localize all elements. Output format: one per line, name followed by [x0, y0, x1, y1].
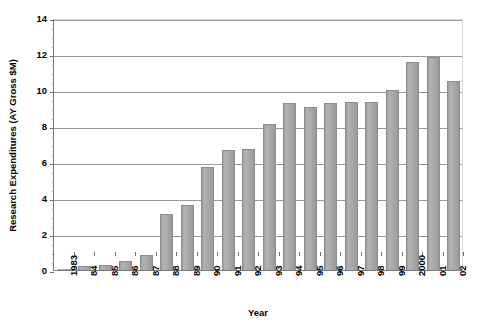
y-axis-title: Research Expenditures (AY Gross $M) [2, 0, 22, 290]
y-axis-tick-label: 10 [21, 86, 47, 96]
bar [263, 124, 276, 270]
y-axis-tick-label: 4 [21, 194, 47, 204]
x-axis-tick-label-text: 02 [457, 265, 468, 276]
x-axis-tick-label-text: 01 [437, 265, 448, 276]
x-axis-tick-label: 96 [324, 276, 335, 310]
x-axis-tick-label: 92 [242, 276, 253, 310]
bar [447, 81, 460, 270]
x-axis-tick-label-text: 95 [314, 265, 325, 276]
bar [365, 102, 378, 270]
bar [283, 103, 296, 270]
x-axis-tick [258, 252, 259, 256]
bar [406, 62, 419, 270]
x-axis-tick-label-text: 85 [109, 265, 120, 276]
x-axis-tick [381, 252, 382, 256]
x-axis-tick-label: 90 [201, 276, 212, 310]
plot-area [53, 19, 463, 271]
x-axis-tick-label-text: 90 [211, 265, 222, 276]
x-axis-tick-label-text: 89 [191, 265, 202, 276]
x-axis-tick-label-text: 88 [170, 265, 181, 276]
x-axis-tick-label: 94 [283, 276, 294, 310]
y-axis-tick-label: 2 [21, 230, 47, 240]
x-axis-tick [53, 252, 54, 256]
x-axis-tick-label: 86 [119, 276, 130, 310]
x-axis-tick [197, 252, 198, 256]
x-axis-tick [402, 252, 403, 256]
x-axis-tick-label-text: 97 [355, 265, 366, 276]
x-axis-tick-label: 98 [365, 276, 376, 310]
bar [181, 205, 194, 270]
x-axis-tick-label: 85 [99, 276, 110, 310]
x-axis-tick [94, 252, 95, 256]
x-axis-tick-label-text: 94 [293, 265, 304, 276]
x-axis-tick-label: 99 [386, 276, 397, 310]
y-axis-tick-label: 6 [21, 158, 47, 168]
x-axis-tick-label-text: 98 [375, 265, 386, 276]
x-axis-tick [279, 252, 280, 256]
y-axis-tick-label: 0 [21, 266, 47, 276]
y-axis-tick-label: 12 [21, 50, 47, 60]
y-axis-major-tick [50, 272, 54, 273]
x-axis-tick-label-text: 2000 [416, 255, 427, 276]
x-axis-tick [176, 252, 177, 256]
x-axis-tick [217, 252, 218, 256]
bar [345, 102, 358, 270]
x-axis-tick [443, 252, 444, 256]
x-axis-tick [361, 252, 362, 256]
x-axis-tick-label: 93 [263, 276, 274, 310]
bar [242, 149, 255, 270]
bar [386, 90, 399, 270]
x-axis-tick [135, 252, 136, 256]
x-axis-tick-label-text: 86 [129, 265, 140, 276]
x-axis-tick-label-text: 87 [150, 265, 161, 276]
x-axis-tick-label: 1983 [58, 276, 69, 310]
x-axis-title: Year [53, 307, 463, 318]
x-axis-tick-label-text: 84 [88, 265, 99, 276]
x-axis-tick-label: 95 [304, 276, 315, 310]
y-axis-title-text: Research Expenditures (AY Gross $M) [7, 59, 18, 232]
bar [160, 214, 173, 270]
x-axis-tick-label-text: 93 [273, 265, 284, 276]
x-axis-tick-label: 97 [345, 276, 356, 310]
bar [427, 57, 440, 270]
x-axis-tick [115, 252, 116, 256]
x-axis-tick-label: 88 [160, 276, 171, 310]
bar [222, 150, 235, 270]
bar [201, 167, 214, 270]
bar-chart: Research Expenditures (AY Gross $M) 0246… [0, 0, 492, 327]
x-axis-tick-label-text: 99 [396, 265, 407, 276]
x-axis-tick [238, 252, 239, 256]
y-axis-tick-label: 14 [21, 14, 47, 24]
bar [304, 107, 317, 270]
x-axis-tick [299, 252, 300, 256]
y-axis-tick-label: 8 [21, 122, 47, 132]
x-axis-tick-label: 01 [427, 276, 438, 310]
x-axis-tick-label-text: 92 [252, 265, 263, 276]
x-axis-tick-label-text: 1983 [68, 255, 79, 276]
x-axis-tick-label: 2000 [406, 276, 417, 310]
x-axis-tick-label: 89 [181, 276, 192, 310]
x-axis-tick [320, 252, 321, 256]
bars-layer [54, 20, 462, 270]
x-axis-tick-label: 84 [78, 276, 89, 310]
x-axis-tick-label-text: 96 [334, 265, 345, 276]
x-axis-tick-label: 87 [140, 276, 151, 310]
x-axis-tick [340, 252, 341, 256]
x-axis-tick-label: 91 [222, 276, 233, 310]
x-axis-tick [156, 252, 157, 256]
x-axis-tick [463, 252, 464, 256]
bar [324, 103, 337, 270]
x-axis-tick-label-text: 91 [232, 265, 243, 276]
x-axis-tick-label: 02 [447, 276, 458, 310]
